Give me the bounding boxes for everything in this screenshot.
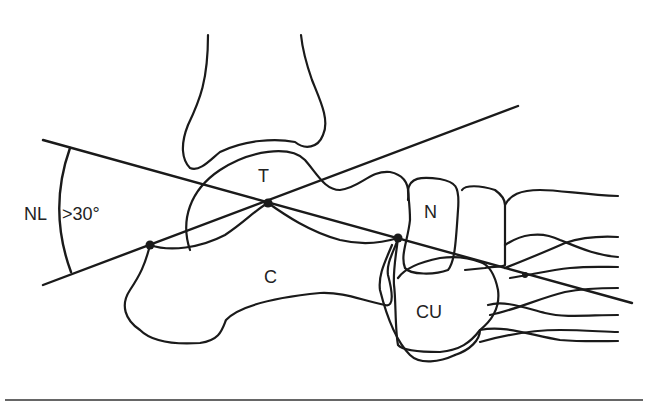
calcaneus-outline xyxy=(125,238,398,343)
talus-outline xyxy=(186,151,408,250)
tibia-outline xyxy=(183,35,325,169)
label-cuboid: CU xyxy=(416,302,442,322)
metatarsal-1 xyxy=(505,190,618,205)
cuboid-outline xyxy=(394,238,499,352)
foot-lateral-diagram: T C N CU NL >30° xyxy=(0,0,651,407)
label-talus: T xyxy=(258,166,269,186)
label-angle-value: >30° xyxy=(62,204,100,224)
calcaneus-point xyxy=(146,241,155,250)
talar-axis-line xyxy=(43,140,632,303)
navicular-point xyxy=(394,234,403,243)
label-calcaneus: C xyxy=(264,267,277,287)
talus-point xyxy=(264,199,273,208)
label-navicular: N xyxy=(424,202,437,222)
metatarsal-4b xyxy=(490,288,618,315)
label-angle-name: NL xyxy=(24,204,47,224)
metatarsal-point xyxy=(522,272,528,278)
